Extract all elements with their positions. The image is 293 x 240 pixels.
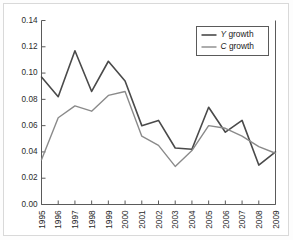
x-tick-label: 1999 [105, 210, 114, 229]
x-tick-label: 2001 [138, 210, 147, 229]
x-tick-label: 1998 [88, 210, 97, 229]
x-tick-label: 2006 [222, 210, 231, 229]
y-tick-label: 0.02 [22, 173, 38, 182]
y-tick-label: 0.12 [22, 42, 38, 51]
x-tick-label: 1996 [54, 210, 63, 229]
figure-frame: 0.000.020.040.060.080.100.120.14 1995199… [0, 0, 293, 240]
x-tick-label: 2004 [188, 210, 197, 229]
x-tick-label: 2008 [255, 210, 264, 229]
series-line-c-growth [42, 91, 276, 166]
legend-label-y-growth: Y growth [221, 29, 254, 39]
line-chart: 0.000.020.040.060.080.100.120.14 1995199… [0, 0, 293, 240]
y-tick-label: 0.04 [22, 147, 38, 156]
x-tick-label: 1995 [38, 210, 47, 229]
chart-legend: Y growthC growth [197, 27, 269, 56]
legend-label-c-growth: C growth [221, 41, 255, 51]
x-tick-label: 1997 [71, 210, 80, 229]
x-tick-label: 2003 [171, 210, 180, 229]
x-tick-label: 2005 [205, 210, 214, 229]
series-line-y-growth [42, 51, 276, 165]
x-tick-label: 2009 [272, 210, 281, 229]
y-tick-label: 0.06 [22, 121, 38, 130]
y-tick-label: 0.00 [22, 200, 38, 209]
y-tick-label: 0.14 [22, 16, 38, 25]
x-tick-label: 2002 [155, 210, 164, 229]
series-layer [42, 51, 276, 167]
x-tick-label: 2000 [121, 210, 130, 229]
y-tick-label: 0.08 [22, 95, 38, 104]
x-tick-label: 2007 [238, 210, 247, 229]
y-tick-label: 0.10 [22, 68, 38, 77]
